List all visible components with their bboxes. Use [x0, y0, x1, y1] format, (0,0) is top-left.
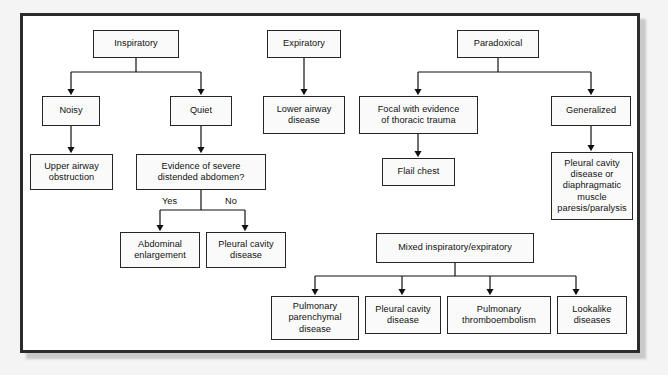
node-noisy[interactable]: Noisy — [42, 96, 100, 126]
node-expiratory[interactable]: Expiratory — [267, 30, 341, 58]
node-paradoxical[interactable]: Paradoxical — [457, 30, 539, 58]
node-quiet[interactable]: Quiet — [170, 96, 232, 126]
figure-canvas: Inspiratory Noisy Quiet Upper airway obs… — [0, 0, 668, 375]
edge-label-yes: Yes — [162, 196, 177, 206]
node-generalized[interactable]: Generalized — [551, 96, 631, 126]
node-lookalike-diseases[interactable]: Lookalike diseases — [557, 296, 627, 334]
node-flail-chest[interactable]: Flail chest — [382, 158, 455, 186]
node-mixed-inspiratory-expiratory[interactable]: Mixed inspiratory/expiratory — [376, 233, 534, 263]
node-abdominal-enlargement[interactable]: Abdominal enlargement — [120, 232, 200, 268]
node-evidence-distended-abdomen[interactable]: Evidence of severe distended abdomen? — [136, 154, 266, 190]
node-pleural-cavity-disease-left[interactable]: Pleural cavity disease — [206, 232, 286, 268]
node-lower-airway-disease[interactable]: Lower airway disease — [263, 96, 345, 134]
node-pulmonary-parenchymal-disease[interactable]: Pulmonary parenchymal disease — [271, 296, 359, 340]
node-upper-airway-obstruction[interactable]: Upper airway obstruction — [30, 154, 113, 190]
node-pleural-cavity-or-diaphragmatic[interactable]: Pleural cavity disease or diaphragmatic … — [551, 152, 633, 220]
node-inspiratory[interactable]: Inspiratory — [93, 30, 179, 58]
node-focal-thoracic-trauma[interactable]: Focal with evidence of thoracic trauma — [359, 96, 478, 134]
edge-label-no: No — [225, 196, 237, 206]
node-pleural-cavity-disease-bottom[interactable]: Pleural cavity disease — [365, 296, 441, 334]
node-pulmonary-thromboembolism[interactable]: Pulmonary thromboembolism — [447, 296, 551, 334]
